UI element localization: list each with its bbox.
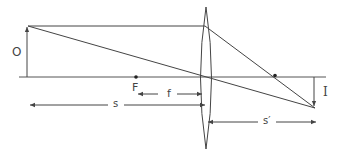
focal-point-label: F [130,82,140,93]
image-label: I [321,86,330,98]
focal-point-right [273,74,277,78]
object-distance-label: s [111,99,120,109]
object-label: O [10,46,23,58]
image-distance-label: s′ [261,116,272,126]
lens-ray-diagram [0,0,338,153]
focal-length-label: f [165,88,173,99]
focal-point-left [134,75,138,79]
